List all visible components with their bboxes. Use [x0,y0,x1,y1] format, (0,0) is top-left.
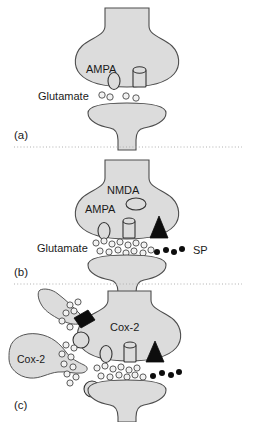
panel-c-cox2-glia-label: Cox-2 [17,353,45,365]
channel-cylinder [123,218,135,238]
synaptic-transmission-figure: AMPA Glutamate (a) [0,0,254,422]
panel-b-label: (b) [14,266,28,278]
panel-c-label: (c) [14,399,28,411]
panel-c-cox2-neuron-label: Cox-2 [110,321,139,333]
nmda-receptor-ellipse [126,198,146,210]
panel-b-glutamate-label: Glutamate [37,242,88,254]
panel-b-nmda-label: NMDA [107,184,140,196]
panel-a-ampa-label: AMPA [86,63,117,75]
panel-b-sp-label: SP [193,244,208,256]
panel-b-ampa-label: AMPA [85,203,116,215]
ampa-receptor-ellipse [98,223,110,240]
panel-a-glutamate-label: Glutamate [38,90,89,102]
panel-a-label: (a) [14,129,28,141]
channel-cylinder [124,342,136,362]
ampa-receptor-ellipse [100,346,112,363]
nmda-channel-cylinder [133,67,146,87]
ampa-receptor-ellipse [108,73,120,90]
